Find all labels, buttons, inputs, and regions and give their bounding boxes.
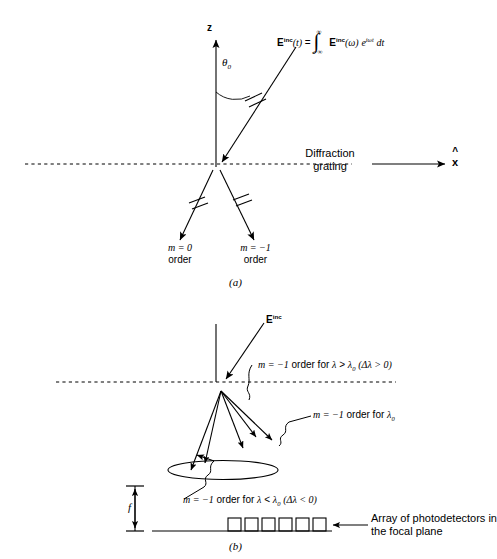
x-axis-label: ^ x (452, 152, 458, 170)
panel-b-photodetector-array (228, 518, 326, 531)
panel-b-caption: (b) (229, 540, 242, 553)
panel-b-leader-center-wavelength (279, 416, 311, 446)
panel-a-incident-ray (222, 47, 296, 162)
x-axis-hat-icon: ^ (452, 146, 458, 158)
annotation-short-wavelength: m = −1 order for λ < λ0 (Δλ < 0) (183, 494, 317, 507)
panel-a-order-rays (180, 170, 254, 240)
incident-field-equation: Einc(t) = ∞ ∫ −∞ Einc(ω) eiωt dt (277, 36, 384, 49)
panel-b-incident-field-label: Einc (266, 313, 282, 326)
panel-a-theta-arc (216, 92, 250, 100)
annotation-center-wavelength: m = −1 order for λ0 (313, 409, 395, 422)
focal-length-label: f (128, 501, 131, 514)
grating-label: Diffraction grating (290, 147, 370, 172)
panel-b-lens (168, 461, 278, 480)
order-label-m-minus-1: m = −1 order (218, 242, 293, 265)
theta-angle-label: θ0 (222, 56, 231, 71)
order-label-m0: m = 0 order (145, 242, 215, 265)
panel-b-diffracted-ray-fan (191, 391, 272, 470)
annotation-long-wavelength: m = −1 order for λ > λ0 (Δλ > 0) (258, 359, 392, 372)
panel-a-caption: (a) (229, 276, 242, 289)
photodetector-array-label: Array of photodetectors in the focal pla… (371, 512, 497, 537)
integral-lower-limit: −∞ (313, 48, 322, 56)
z-axis-label: z (207, 22, 212, 34)
